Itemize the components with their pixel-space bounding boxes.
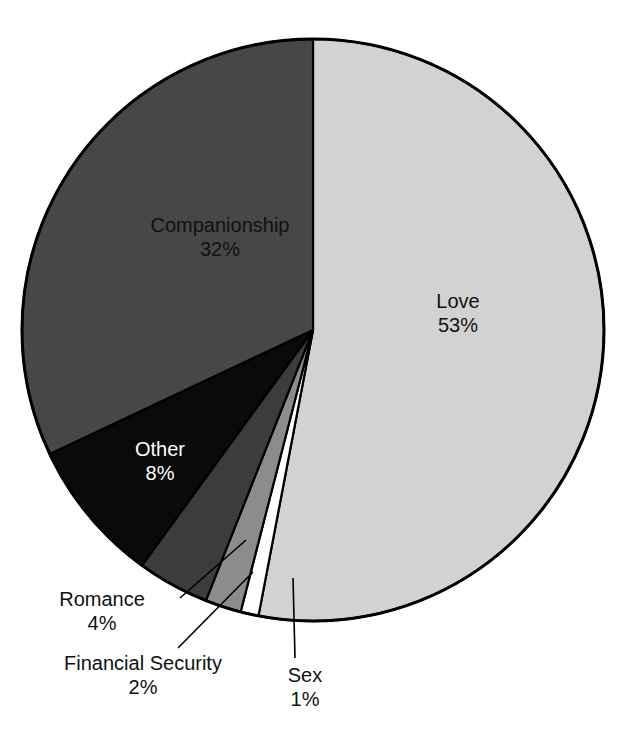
pie-slice-group bbox=[22, 39, 604, 621]
pie-chart-canvas bbox=[0, 0, 621, 746]
pie-chart-figure: Companionship 32% Love 53% Other 8% Roma… bbox=[0, 0, 621, 746]
